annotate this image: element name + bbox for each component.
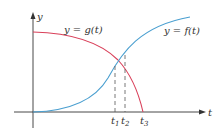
f-curve-label: y = f(t) [163,25,200,36]
y-axis-label: y [36,11,43,22]
graph: y t y = g(t) y = f(t) t1 t2 t3 [0,0,216,136]
tick-label-t1: t1 [111,115,120,128]
g-curve-label: y = g(t) [63,24,103,35]
tick-label-t2: t2 [121,115,130,128]
g-curve [33,32,143,112]
y-axis-arrow-icon [31,12,36,19]
x-axis-label: t [208,107,213,118]
tick-label-t3: t3 [140,115,149,128]
x-axis-arrow-icon [199,110,206,115]
